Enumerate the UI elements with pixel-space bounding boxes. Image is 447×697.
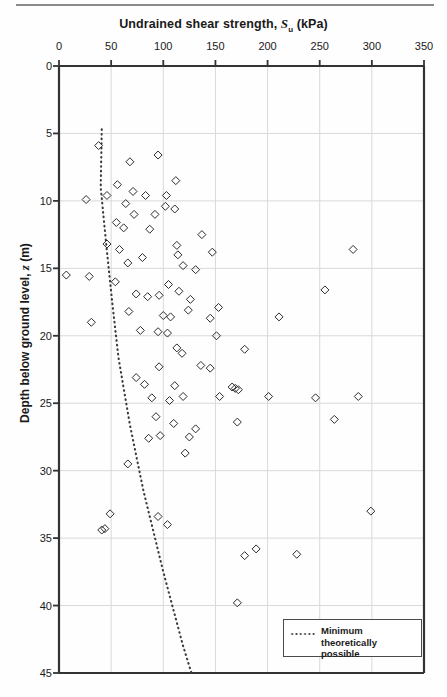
y-tick-label-7: 35 [18, 532, 52, 544]
x-tick-label-1: 50 [105, 40, 117, 52]
data-point [170, 419, 178, 427]
scatter-plot-canvas [0, 0, 447, 697]
data-point [312, 394, 320, 402]
data-point [321, 286, 329, 294]
data-point [112, 218, 120, 226]
data-point [85, 272, 93, 280]
data-point [241, 552, 249, 560]
legend-item-minimum-theoretical: Minimum theoretically possible [290, 625, 415, 660]
data-point [126, 158, 134, 166]
data-point [241, 345, 249, 353]
data-point [124, 259, 132, 267]
data-point [155, 291, 163, 299]
data-point [132, 290, 140, 298]
data-point [233, 418, 241, 426]
x-tick-label-4: 200 [258, 40, 276, 52]
y-tick-label-4: 20 [18, 330, 52, 342]
data-point [124, 460, 132, 468]
y-tick-label-0: 0 [18, 60, 52, 72]
data-point [106, 510, 114, 518]
data-point [154, 328, 162, 336]
data-point [293, 550, 301, 558]
data-point [146, 225, 154, 233]
data-point [265, 392, 273, 400]
x-tick-label-2: 100 [154, 40, 172, 52]
data-point [171, 382, 179, 390]
data-point [198, 231, 206, 239]
data-point [367, 507, 375, 515]
x-tick-label-6: 300 [363, 40, 381, 52]
dotted-line-swatch-icon [290, 628, 316, 640]
data-point [184, 306, 192, 314]
y-tick-label-6: 30 [18, 465, 52, 477]
data-point [155, 363, 163, 371]
data-point [186, 295, 194, 303]
axis-ticks [53, 60, 424, 673]
trend-line-minimum-theoretical [101, 129, 192, 673]
data-point [165, 281, 173, 289]
data-point [142, 191, 150, 199]
data-point [154, 513, 162, 521]
data-point [172, 177, 180, 185]
data-point [179, 392, 187, 400]
data-point [354, 392, 362, 400]
gridlines [59, 66, 424, 673]
x-tick-label-0: 0 [56, 40, 62, 52]
data-point [197, 361, 205, 369]
data-point [181, 449, 189, 457]
data-point [173, 344, 181, 352]
data-point [62, 271, 70, 279]
data-point [87, 318, 95, 326]
y-tick-label-3: 15 [18, 262, 52, 274]
data-point [349, 245, 357, 253]
data-point [120, 224, 128, 232]
data-point [206, 364, 214, 372]
chart-page: Undrained shear strength, Su (kPa) Depth… [0, 0, 447, 697]
data-point [152, 413, 160, 421]
data-point [141, 380, 149, 388]
data-point [129, 187, 137, 195]
axis-lines [59, 66, 424, 673]
y-tick-label-2: 10 [18, 195, 52, 207]
data-point [115, 245, 123, 253]
legend-item-label: Minimum theoretically possible [321, 625, 415, 660]
data-point [144, 293, 152, 301]
data-point [163, 521, 171, 529]
data-point [111, 278, 119, 286]
x-tick-label-3: 150 [206, 40, 224, 52]
data-point [130, 210, 138, 218]
data-point [161, 202, 169, 210]
data-point [132, 374, 140, 382]
y-tick-label-8: 40 [18, 600, 52, 612]
x-tick-label-7: 350 [415, 40, 433, 52]
data-point [192, 425, 200, 433]
x-tick-label-5: 250 [311, 40, 329, 52]
data-point [185, 433, 193, 441]
data-point [138, 254, 146, 262]
data-point [174, 251, 182, 259]
data-point [167, 313, 175, 321]
data-point [275, 313, 283, 321]
data-point [145, 434, 153, 442]
data-point [178, 349, 186, 357]
data-point [252, 545, 260, 553]
data-point [136, 326, 144, 334]
data-point [192, 266, 200, 274]
data-point [103, 191, 111, 199]
data-point [216, 392, 224, 400]
legend: Minimum theoretically possible [283, 619, 422, 657]
data-point [154, 151, 162, 159]
data-point [330, 415, 338, 423]
data-point-group [62, 142, 375, 607]
y-tick-label-9: 45 [18, 667, 52, 679]
data-point [148, 394, 156, 402]
data-point [173, 241, 181, 249]
data-point [206, 314, 214, 322]
data-point [171, 205, 179, 213]
y-tick-label-1: 5 [18, 127, 52, 139]
y-tick-label-5: 25 [18, 397, 52, 409]
data-point [113, 181, 121, 189]
data-point [125, 307, 133, 315]
data-point [82, 196, 90, 204]
data-point [175, 287, 183, 295]
